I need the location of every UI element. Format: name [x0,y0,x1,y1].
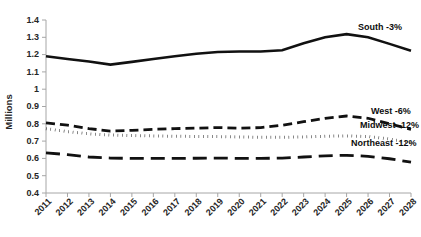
y-tick-label: 0.8 [26,119,39,129]
y-tick-label: 1.1 [26,67,39,77]
chart-canvas: 0.40.50.60.70.80.911.11.21.31.4 20112012… [0,0,421,237]
y-tick-label: 1 [34,84,39,94]
y-tick-label: 1.2 [26,49,39,59]
line-chart: 0.40.50.60.70.80.911.11.21.31.4 20112012… [0,0,421,237]
series-label-northeast: Northeast -12% [351,138,417,148]
y-tick-label: 0.4 [26,188,39,198]
y-axis-title: Millions [3,94,14,129]
series-label-west: West -6% [371,106,411,116]
y-tick-label: 0.6 [26,153,39,163]
y-tick-label: 0.5 [26,171,39,181]
y-tick-label: 1.4 [26,15,39,25]
series-label-south: South -3% [358,22,402,32]
y-tick-label: 1.3 [26,32,39,42]
y-tick-label: 0.9 [26,101,39,111]
y-tick-label: 0.7 [26,136,39,146]
series-label-midwest: Midwest -12% [360,120,419,130]
